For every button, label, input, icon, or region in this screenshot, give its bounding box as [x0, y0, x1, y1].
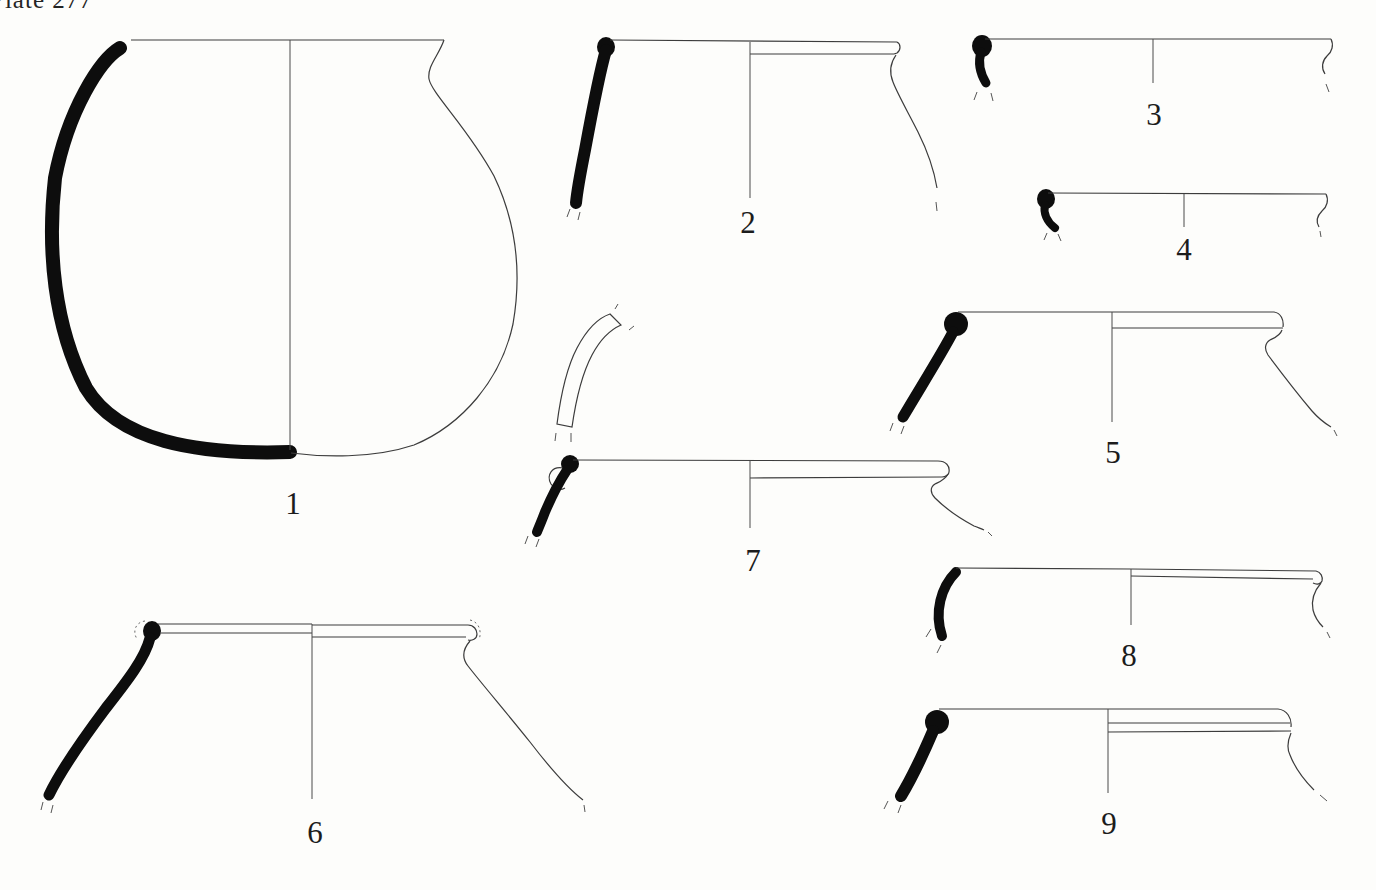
vessel-3-break-dash	[974, 92, 993, 101]
vessel-6-break-dash	[41, 802, 53, 813]
vessel-7-section-fill	[537, 470, 567, 532]
vessel-8-outline	[1312, 583, 1323, 627]
vessel-4-outline	[1317, 194, 1327, 227]
vessel-4-rim-line	[1048, 193, 1326, 194]
vessel-7-drawing	[525, 455, 992, 547]
vessel-7-break-dash-right	[988, 532, 992, 536]
vessel-4-section-fill	[1044, 205, 1055, 228]
vessel-3-outline	[1323, 39, 1333, 74]
plate-page: Plate 277	[0, 0, 1376, 890]
vessel-5-rim-line	[958, 312, 1283, 327]
vessel-6-rim-cap	[468, 625, 477, 640]
vessel-7-rim-line	[573, 460, 949, 472]
vessel-1-section-fill	[52, 48, 290, 452]
figure-label-4: 4	[1176, 234, 1192, 265]
vessel-6-section-fill	[49, 638, 150, 795]
figure-label-6: 6	[307, 817, 323, 848]
vessel-9-break-dash-right	[1320, 795, 1327, 801]
vessel-2-rim-line	[610, 40, 897, 42]
vessel-9-outline	[1288, 733, 1314, 790]
vessel-5-break-dash	[890, 423, 904, 434]
vessel-9-break-dash	[884, 801, 901, 813]
vessel-9-rim-line	[939, 709, 1291, 727]
body-sherd-fragment-drawing	[555, 304, 634, 442]
vessel-2-break-dash-right	[936, 202, 937, 211]
vessel-6-outline	[464, 641, 583, 800]
vessel-2-rim-ledge	[750, 42, 900, 54]
fragment-outline	[557, 314, 621, 427]
vessel-9-rim-band	[1108, 723, 1291, 732]
vessel-5-section-fill	[903, 332, 953, 417]
vessel-4-break-dash	[1044, 233, 1061, 241]
vessel-5-outline	[1266, 330, 1331, 427]
figure-label-1: 1	[285, 488, 301, 519]
vessel-8-rim-line	[956, 568, 1131, 569]
figure-label-8: 8	[1121, 640, 1137, 671]
figure-label-5: 5	[1105, 437, 1121, 468]
vessel-8-section-fill	[939, 572, 956, 636]
vessel-5-drawing	[890, 312, 1337, 436]
vessel-6-break-dash-right	[584, 805, 585, 812]
figure-label-9: 9	[1101, 808, 1117, 839]
vessel-2-break-dash	[567, 209, 580, 220]
vessel-3-section-fill	[980, 52, 986, 83]
figure-label-3: 3	[1146, 99, 1162, 130]
vessel-3-drawing	[972, 35, 1332, 101]
figure-label-7: 7	[745, 545, 761, 576]
pottery-plate-drawing	[0, 0, 1376, 890]
vessel-8-rim-cap	[1313, 571, 1322, 584]
vessel-6-drawing	[41, 620, 585, 813]
vessel-2-drawing	[567, 37, 937, 220]
vessel-9-section-fill	[901, 731, 933, 796]
vessel-9-drawing	[884, 709, 1327, 813]
vessel-4-break-dash-right	[1320, 231, 1321, 237]
vessel-6-rim-band-right	[312, 625, 468, 637]
vessel-7-rim-ledge	[750, 472, 949, 478]
figure-label-2: 2	[740, 207, 756, 238]
vessel-2-section-fill	[576, 50, 606, 203]
vessel-5-break-dash-right	[1334, 430, 1337, 436]
vessel-3-break-dash-right	[1326, 84, 1329, 92]
vessel-6-restoration-dotted-right	[470, 620, 480, 640]
vessel-1-drawing	[52, 40, 517, 456]
vessel-8-rim-band	[1131, 569, 1316, 579]
vessel-8-break-dash-right	[1327, 632, 1330, 638]
vessel-7-outline	[931, 474, 984, 530]
vessel-6-rim-band-left	[158, 624, 312, 633]
vessel-7-break-dash	[525, 536, 539, 547]
fragment-break-dash-bottom	[555, 433, 571, 442]
vessel-1-outline	[291, 40, 517, 456]
vessel-2-outline	[891, 55, 937, 188]
